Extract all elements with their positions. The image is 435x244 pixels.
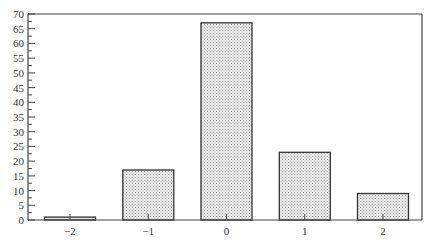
x-tick-label: −1 (142, 225, 154, 237)
y-tick-label: 30 (13, 126, 25, 138)
y-tick-label: 65 (13, 23, 25, 35)
y-tick-label: 10 (13, 185, 25, 197)
y-tick-label: 55 (13, 52, 25, 64)
bar-0 (201, 23, 252, 220)
y-tick-label: 0 (19, 214, 25, 226)
y-tick-label: 35 (13, 111, 25, 123)
y-tick-label: 40 (13, 96, 25, 108)
y-axis-ticks: 0510152025303540455055606570 (13, 8, 35, 226)
x-tick-label: 0 (224, 225, 230, 237)
bar-neg1 (123, 170, 174, 220)
y-tick-label: 50 (13, 67, 25, 79)
x-tick-label: 2 (380, 225, 386, 237)
y-tick-label: 70 (13, 8, 25, 20)
y-tick-label: 60 (13, 37, 25, 49)
x-tick-label: −2 (64, 225, 76, 237)
bar-chart: 0510152025303540455055606570 −2−1012 (0, 0, 435, 244)
chart-canvas: 0510152025303540455055606570 −2−1012 (0, 0, 435, 244)
bars (45, 23, 409, 220)
x-tick-label: 1 (302, 225, 308, 237)
y-tick-label: 25 (13, 140, 25, 152)
y-tick-label: 20 (13, 155, 25, 167)
y-tick-label: 15 (13, 170, 25, 182)
y-tick-label: 5 (19, 199, 25, 211)
bar-1 (279, 152, 330, 220)
y-tick-label: 45 (13, 82, 25, 94)
